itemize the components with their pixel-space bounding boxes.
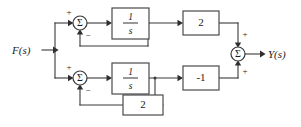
sign-bottom-input-plus: + [66, 62, 71, 72]
block-top-integrator-numerator: 1 [128, 12, 133, 22]
output-signal-label: Y(s) [268, 48, 286, 61]
block-diagram: Σ + − 1 s 2 Σ + − 1 s [0, 0, 301, 127]
block-bottom-integrator-denominator: s [129, 81, 133, 91]
wire-split-to-top-sum [55, 20, 73, 26]
wire-split-to-bottom-sum [55, 75, 73, 81]
wire-bottom-sum-to-integrator [87, 75, 112, 81]
wire-top-integrator-to-gain [149, 20, 183, 26]
block-bottom-feedback-gain-value: 2 [140, 98, 146, 110]
wire-bottom-gain-to-output-sum [219, 60, 241, 78]
block-top-gain[interactable]: 2 [183, 11, 219, 35]
summing-junction-output-sigma: Σ [235, 48, 241, 59]
block-bottom-integrator[interactable]: 1 s [112, 63, 149, 94]
block-bottom-feedback-gain[interactable]: 2 [123, 95, 163, 115]
summing-junction-top-sigma: Σ [77, 17, 83, 28]
sign-top-feedback-minus: − [85, 30, 90, 40]
summing-junction-top[interactable]: Σ [73, 16, 87, 30]
summing-junction-bottom-sigma: Σ [77, 72, 83, 83]
block-top-integrator[interactable]: 1 s [112, 8, 149, 39]
wire-top-sum-to-integrator [87, 20, 112, 26]
block-bottom-integrator-numerator: 1 [128, 67, 133, 77]
wire-input-to-split [42, 47, 59, 54]
wire-top-gain-to-output-sum [219, 23, 241, 48]
sign-bottom-feedback-minus: − [85, 85, 90, 95]
block-top-integrator-denominator: s [129, 26, 133, 36]
wire-output-sum-to-output [245, 51, 266, 58]
sign-top-input-plus: + [66, 7, 71, 17]
block-bottom-gain-value: -1 [196, 71, 205, 83]
input-signal-label: F(s) [11, 44, 31, 57]
sign-output-top-plus: + [242, 29, 247, 39]
summing-junction-bottom[interactable]: Σ [73, 71, 87, 85]
block-diagram-canvas: Σ + − 1 s 2 Σ + − 1 s [0, 0, 301, 127]
sign-output-bottom-plus: + [242, 66, 247, 76]
block-bottom-gain[interactable]: -1 [183, 66, 219, 90]
block-top-gain-value: 2 [198, 16, 204, 28]
summing-junction-output[interactable]: Σ [231, 47, 245, 61]
